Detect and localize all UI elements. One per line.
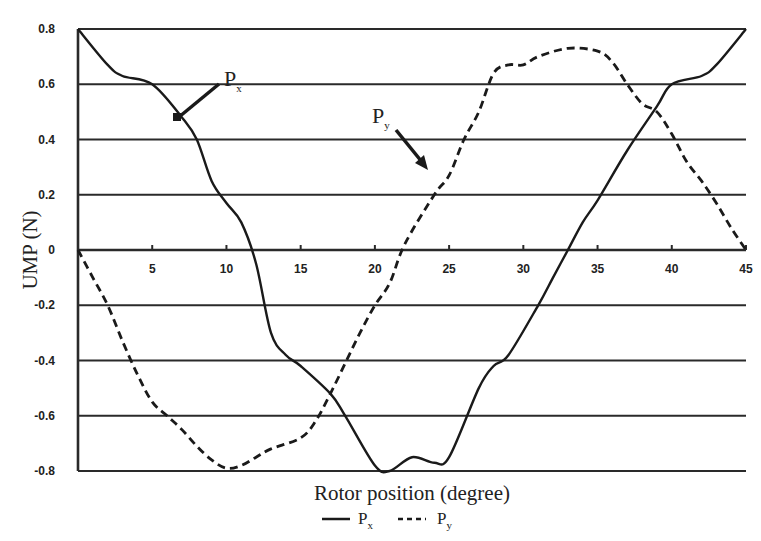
y-tick-label: 0.4 — [38, 133, 55, 147]
x-tick-label: 35 — [591, 262, 605, 276]
x-axis-title: Rotor position (degree) — [314, 481, 510, 505]
py-annotation-arrow — [396, 130, 422, 162]
grid-lines — [78, 29, 746, 471]
x-tick-label: 10 — [220, 262, 234, 276]
legend-item-px: Px — [322, 509, 373, 531]
py-annotation: Py — [372, 103, 428, 170]
x-tick-label: 30 — [517, 262, 531, 276]
x-tick-label: 20 — [368, 262, 382, 276]
py-annotation-label: Py — [372, 103, 390, 131]
x-tick-label: 25 — [442, 262, 456, 276]
legend-label-px: Px — [358, 509, 373, 531]
y-tick-label: -0.6 — [34, 409, 55, 423]
y-tick-label: -0.8 — [34, 464, 55, 478]
legend-label-py: Py — [437, 509, 452, 531]
ump-line-chart: 0.80.60.40.20-0.2-0.4-0.6-0.8 5101520253… — [0, 0, 761, 541]
y-tick-label: 0.2 — [38, 188, 55, 202]
y-tick-label: -0.2 — [34, 298, 55, 312]
px-annotation-marker — [173, 113, 181, 121]
px-annotation-label: Px — [224, 66, 242, 94]
legend: Px Py — [322, 509, 452, 531]
px-annotation: Px — [173, 66, 242, 121]
px-annotation-arrow — [179, 84, 219, 117]
x-tick-label: 45 — [739, 262, 753, 276]
x-tick-label: 5 — [149, 262, 156, 276]
legend-item-py: Py — [398, 509, 452, 531]
y-tick-label: 0.8 — [38, 22, 55, 36]
x-tick-label: 40 — [665, 262, 679, 276]
y-axis-title: UMP (N) — [18, 210, 42, 289]
y-tick-label: -0.4 — [34, 354, 55, 368]
x-tick-label: 15 — [294, 262, 308, 276]
y-tick-label: 0 — [48, 243, 55, 257]
y-tick-label: 0.6 — [38, 77, 55, 91]
